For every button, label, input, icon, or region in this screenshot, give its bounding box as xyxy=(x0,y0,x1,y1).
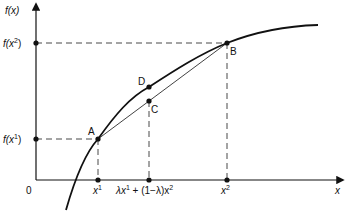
point-b-dot xyxy=(224,40,229,45)
chord-ab xyxy=(98,43,227,139)
y-tick-fx1: f(x1) xyxy=(3,133,21,145)
origin-label: 0 xyxy=(26,185,32,196)
point-b-label: B xyxy=(230,46,237,57)
point-a-dot xyxy=(95,136,100,141)
point-d-dot xyxy=(146,84,151,89)
dot-x1 xyxy=(95,177,100,182)
x-axis-label: x xyxy=(334,185,341,196)
point-a-label: A xyxy=(88,126,95,137)
dot-fx2 xyxy=(33,40,38,45)
dot-mid xyxy=(146,177,151,182)
y-tick-fx2: f(x2) xyxy=(3,37,21,49)
x-tick-x1: x1 xyxy=(92,184,102,196)
dot-x2 xyxy=(224,177,229,182)
point-c-label: C xyxy=(151,104,158,115)
point-c-dot xyxy=(146,98,151,103)
y-axis-label: f(x) xyxy=(5,5,19,16)
point-d-label: D xyxy=(138,76,145,87)
dot-fx1 xyxy=(33,136,38,141)
concave-function-diagram: f(x) x 0 f(x2) f(x1) x1 λx1 + (1−λ)x2 x2… xyxy=(0,0,347,217)
x-tick-convex-combination: λx1 + (1−λ)x2 xyxy=(115,184,173,196)
concave-curve xyxy=(66,25,318,210)
x-tick-x2: x2 xyxy=(220,184,230,196)
